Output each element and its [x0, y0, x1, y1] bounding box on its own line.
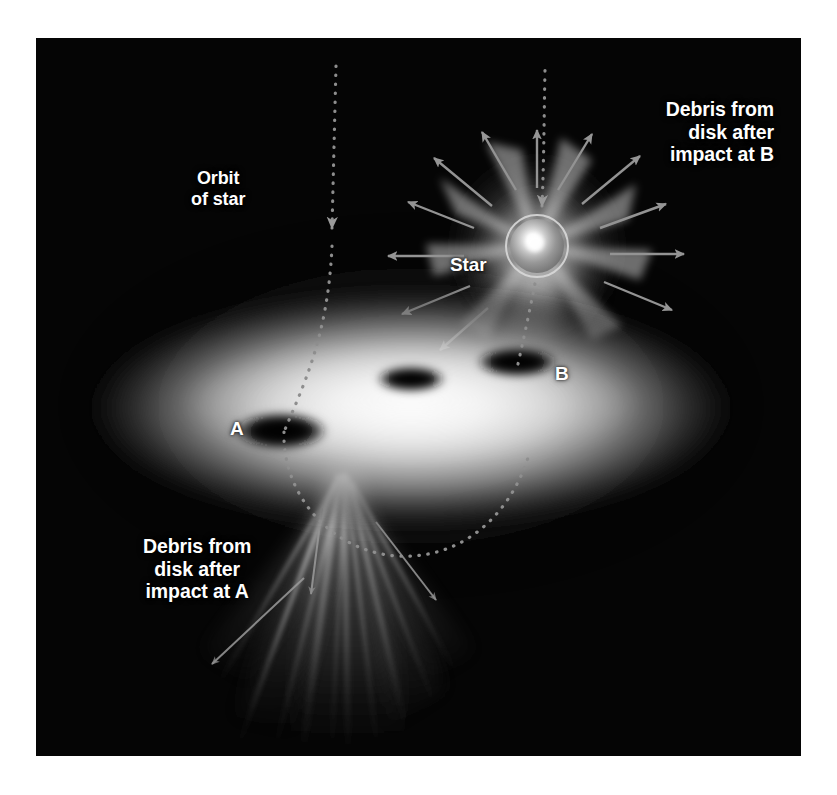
disk-group [77, 286, 745, 530]
star-group [491, 200, 583, 292]
impact-hole-b [476, 347, 558, 377]
figure-root: Debris from disk after impact at B Debri… [0, 0, 837, 795]
impact-hole-a [234, 412, 328, 450]
star-core-glow [526, 234, 544, 252]
scene-graphic [36, 38, 801, 756]
impact-hole-center [376, 366, 446, 392]
illustration-panel: Debris from disk after impact at B Debri… [36, 38, 801, 756]
